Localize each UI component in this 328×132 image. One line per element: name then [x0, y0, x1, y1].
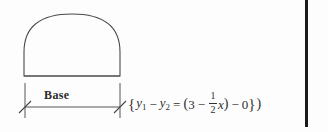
equation-trailing-paren: ) — [256, 97, 261, 111]
equation-open-brace: { — [128, 97, 136, 112]
equation-minus-3: − — [228, 98, 241, 111]
equation-minus-1: − — [146, 98, 159, 111]
scan-speckle — [30, 28, 40, 38]
scanned-figure-page: Base { y1 − y2 = ( 3 − 1 2 x ) − 0 } ) — [0, 0, 328, 132]
equation-y2: y2 — [160, 96, 170, 112]
equation-close-brace: } — [248, 97, 256, 112]
equation-equals-sign: = — [170, 98, 183, 111]
equation-expression: { y1 − y2 = ( 3 − 1 2 x ) − 0 } ) — [128, 92, 261, 116]
fraction-numerator: 1 — [209, 91, 216, 102]
equation-minus-2: − — [195, 98, 208, 111]
base-dimension-label: Base — [44, 88, 70, 103]
page-edge-rule — [305, 0, 308, 127]
equation-fraction-one-half: 1 2 — [209, 91, 217, 115]
equation-y1: y1 — [136, 96, 146, 112]
dome-outline — [24, 14, 120, 76]
fraction-denominator: 2 — [209, 105, 216, 116]
